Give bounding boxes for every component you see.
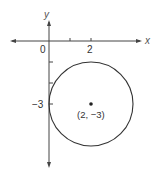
y-axis-label: y [43,9,50,20]
x-axis [10,38,142,43]
x-tick-label: 2 [87,44,93,55]
coordinate-plane: y x 0 2 −3 (2, −3) [0,0,157,179]
y-axis-up-arrow-icon [47,20,51,26]
center-point [89,102,93,106]
x-axis-right-arrow-icon [136,39,142,43]
origin-label: 0 [40,44,46,55]
center-label: (2, −3) [77,109,105,120]
y-axis-down-arrow-icon [47,162,51,168]
x-axis-label: x [144,35,151,46]
y-tick-label: −3 [32,99,44,110]
x-axis-left-arrow-icon [10,39,16,43]
